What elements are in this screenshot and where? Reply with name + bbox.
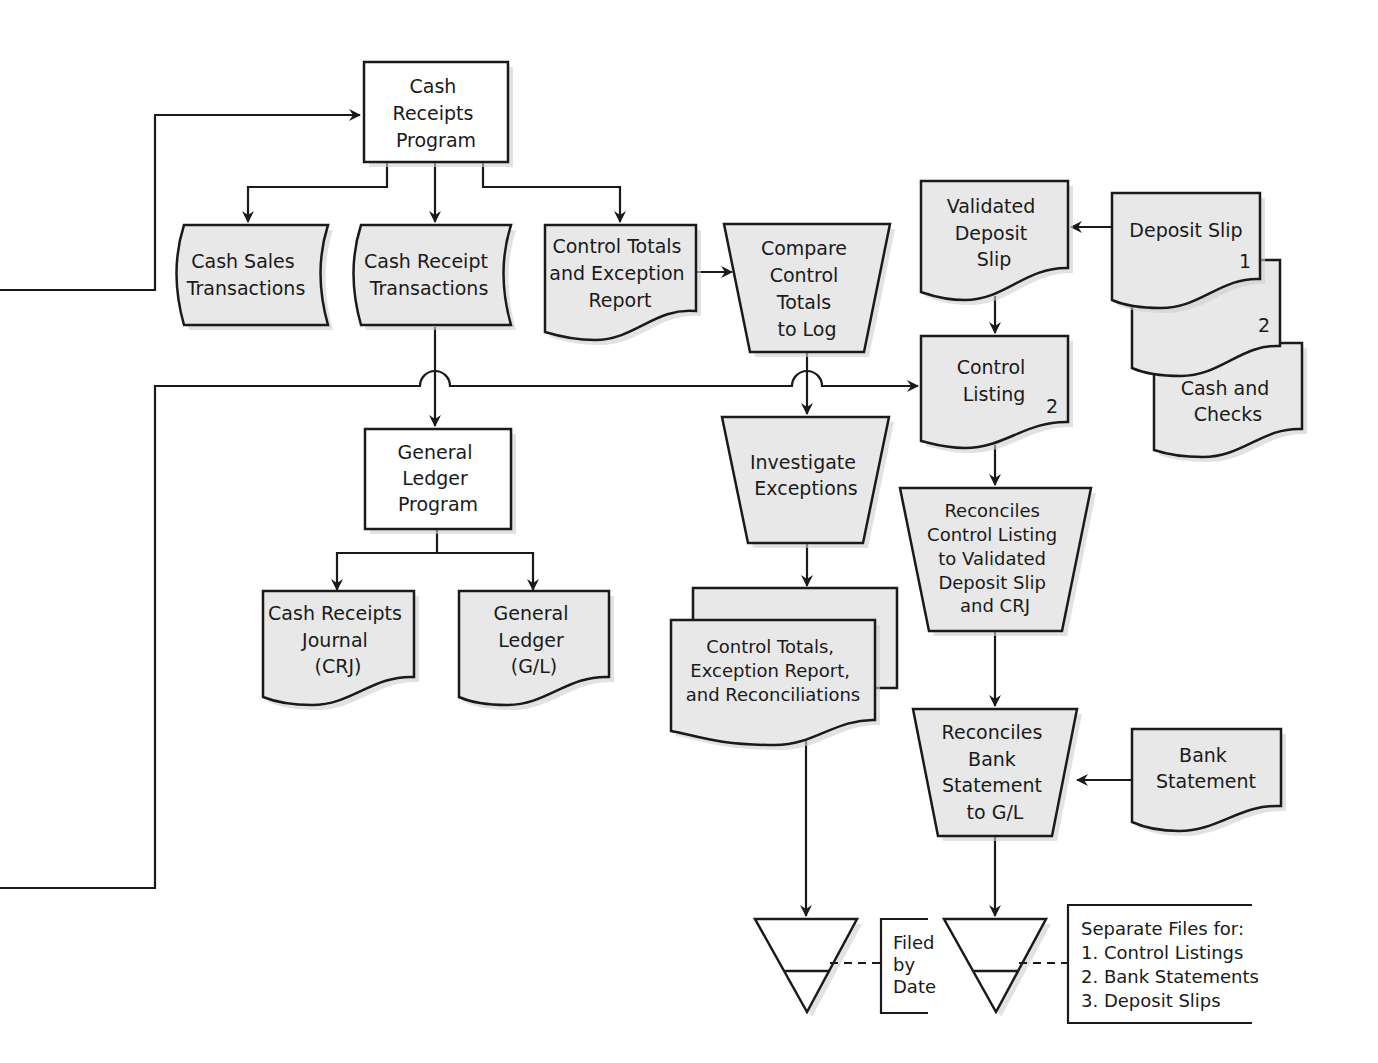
general-ledger-program-node[interactable]: General Ledger Program (365, 429, 516, 534)
cash-receipts-journal-node[interactable]: Cash Receipts Journal (CRJ) (263, 591, 419, 710)
copy-number: 2 (1046, 395, 1058, 417)
copy-number: 2 (1258, 314, 1270, 336)
edge-program-to-cash-sales (248, 163, 387, 222)
general-ledger-node[interactable]: General Ledger (G/L) (459, 591, 614, 710)
control-totals-exception-report-node[interactable]: Control Totals and Exception Report (545, 225, 701, 345)
edge-program-to-control-totals (483, 163, 620, 222)
reconciles-control-listing-node[interactable]: Reconciles Control Listing to Validated … (900, 488, 1096, 636)
validated-deposit-slip-node[interactable]: Validated Deposit Slip (921, 181, 1073, 305)
investigate-exceptions-node[interactable]: Investigate Exceptions (722, 417, 894, 548)
flowchart-canvas: Cash Receipts Program Cash Sales Transac… (0, 0, 1378, 1063)
edge-gl-program-to-gl (437, 553, 533, 590)
cash-sales-transactions-node[interactable]: Cash Sales Transactions (177, 225, 334, 330)
node-label: General Ledger Program (398, 441, 479, 515)
copy-number: 1 (1239, 250, 1251, 272)
file-by-date-node[interactable] (755, 919, 862, 1017)
compare-control-totals-node[interactable]: Compare Control Totals to Log (724, 224, 895, 357)
node-label: Control Totals, Exception Report, and Re… (686, 636, 860, 705)
control-totals-reconciliations-node[interactable]: Control Totals, Exception Report, and Re… (671, 588, 897, 750)
control-listing-node[interactable]: Control Listing 2 (921, 336, 1073, 453)
bank-statement-node[interactable]: Bank Statement (1132, 729, 1286, 836)
cash-receipts-program-node[interactable]: Cash Receipts Program (364, 62, 513, 167)
annotation-filed-by-date: Filed by Date (893, 932, 940, 997)
edge-gl-program-to-crj (337, 530, 437, 590)
reconciles-bank-statement-node[interactable]: Reconciles Bank Statement to G/L (913, 709, 1082, 841)
annotation-separate-files: Separate Files for: 1. Control Listings … (1081, 918, 1265, 1011)
file-separate-node[interactable] (944, 919, 1051, 1017)
node-label: Deposit Slip (1129, 219, 1242, 241)
cash-receipt-transactions-node[interactable]: Cash Receipt Transactions (354, 225, 517, 330)
